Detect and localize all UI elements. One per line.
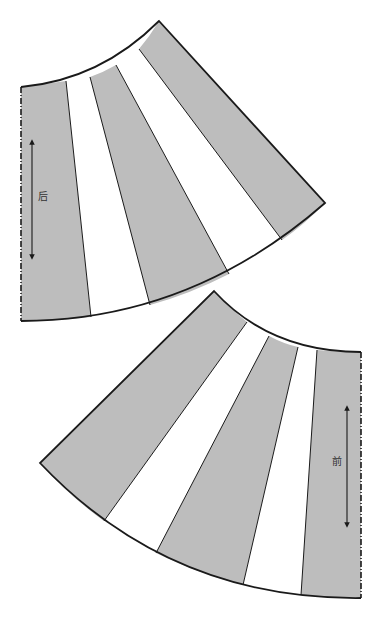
back-piece: 后 xyxy=(21,21,325,321)
front-piece: 前 xyxy=(40,291,361,598)
front-label: 前 xyxy=(332,455,342,467)
back-label: 后 xyxy=(38,191,48,202)
pattern-diagram: 后 前 xyxy=(0,0,380,619)
